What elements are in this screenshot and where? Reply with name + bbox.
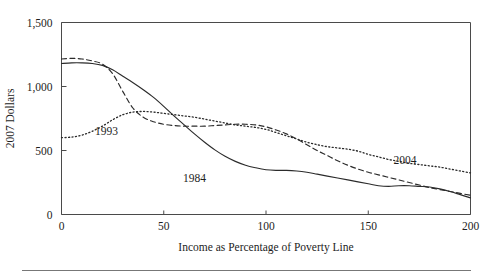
series-label-1993: 1993 — [95, 125, 118, 137]
series-label-1984: 1984 — [183, 172, 206, 184]
y-axis-ticks — [62, 23, 67, 151]
x-tick-label: 100 — [257, 220, 275, 232]
x-tick-label: 0 — [59, 220, 65, 232]
y-tick-label: 500 — [35, 145, 53, 157]
x-axis-tick-labels: 050100150200 — [59, 220, 480, 232]
line-chart: 050100150200 05001,0001,500 198419932004… — [0, 0, 493, 277]
y-tick-label: 1,000 — [27, 81, 53, 94]
figure-container: 050100150200 05001,0001,500 198419932004… — [0, 0, 493, 277]
series-line-1984 — [62, 63, 471, 198]
x-tick-label: 200 — [462, 220, 480, 232]
series-annotations: 198419932004 — [95, 125, 417, 184]
y-axis-tick-labels: 05001,0001,500 — [27, 17, 53, 221]
x-tick-label: 150 — [360, 220, 378, 232]
series-label-2004: 2004 — [394, 154, 417, 166]
x-axis-ticks — [62, 211, 471, 215]
x-axis-title: Income as Percentage of Poverty Line — [178, 241, 353, 254]
series-line-1993 — [62, 58, 471, 195]
x-tick-label: 50 — [158, 220, 170, 232]
y-axis-title: 2007 Dollars — [4, 88, 16, 148]
y-tick-label: 0 — [47, 209, 53, 221]
series-curves — [62, 58, 471, 198]
y-tick-label: 1,500 — [27, 17, 53, 30]
